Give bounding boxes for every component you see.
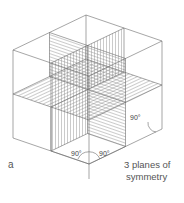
caption-line-1: 3 planes of bbox=[124, 159, 170, 170]
angle-arc-right bbox=[148, 122, 156, 132]
angle-label-front-right: 90° bbox=[99, 150, 110, 157]
caption-line-2: symmetry bbox=[126, 171, 167, 182]
panel-letter: a bbox=[8, 159, 14, 170]
angle-label-front-left: 90° bbox=[71, 150, 82, 157]
angle-label-right-side: 90° bbox=[130, 114, 141, 121]
